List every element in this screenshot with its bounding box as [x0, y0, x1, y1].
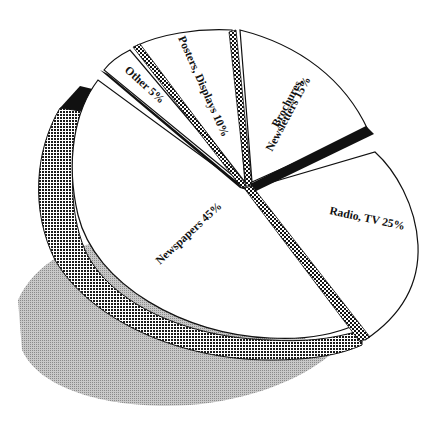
pie-chart: Other 5% Posters, Displays 10% Brochures… [0, 0, 444, 424]
